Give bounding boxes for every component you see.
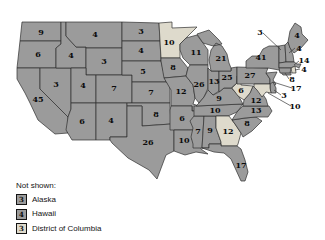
- votes-georgia: 12: [222, 126, 233, 136]
- legend: Not shown: 3 Alaska 4 Hawaii 3 District …: [16, 182, 101, 238]
- votes-tennessee: 10: [209, 105, 221, 115]
- votes-west-virginia: 6: [238, 85, 244, 95]
- votes-south-dakota: 4: [138, 45, 144, 55]
- votes-montana: 4: [92, 29, 98, 39]
- votes-vermont: 3: [257, 27, 263, 37]
- legend-votes-alaska: 3: [19, 196, 24, 203]
- votes-rhode-island: 4: [301, 64, 307, 74]
- votes-nevada: 3: [53, 79, 59, 89]
- votes-arizona: 6: [79, 116, 85, 126]
- votes-iowa: 8: [170, 62, 176, 72]
- votes-nebraska: 5: [140, 66, 146, 76]
- votes-michigan: 21: [215, 53, 226, 63]
- votes-oregon: 6: [35, 49, 41, 59]
- legend-label-hawaii: Hawaii: [32, 210, 56, 218]
- votes-alabama: 9: [207, 125, 213, 135]
- votes-idaho: 4: [68, 50, 74, 60]
- legend-swatch-hawaii: 4: [16, 209, 27, 220]
- votes-kentucky: 9: [216, 93, 222, 103]
- votes-california: 45: [32, 94, 43, 104]
- votes-louisiana: 10: [178, 135, 190, 145]
- votes-illinois: 26: [193, 79, 205, 89]
- votes-virginia: 12: [250, 95, 261, 105]
- votes-texas: 26: [142, 137, 154, 147]
- votes-colorado: 7: [111, 83, 117, 93]
- votes-north-carolina: 13: [250, 105, 262, 115]
- state-connecticut: [279, 68, 291, 73]
- votes-wyoming: 3: [101, 56, 107, 66]
- legend-votes-hawaii: 4: [19, 211, 24, 218]
- votes-minnesota: 10: [163, 37, 175, 47]
- votes-kansas: 7: [148, 87, 154, 97]
- votes-utah: 4: [80, 80, 86, 90]
- votes-oklahoma: 8: [153, 109, 159, 119]
- votes-new-york: 41: [255, 52, 266, 62]
- pointer-line-maryland: [268, 93, 291, 106]
- votes-maine: 4: [294, 30, 300, 40]
- votes-arkansas: 6: [179, 113, 185, 123]
- legend-label-alaska: Alaska: [32, 196, 56, 204]
- legend-swatch-alaska: 3: [16, 194, 27, 205]
- votes-wisconsin: 11: [190, 47, 201, 57]
- votes-pennsylvania: 27: [244, 70, 255, 80]
- legend-swatch-district-of-columbia: 3: [16, 223, 27, 234]
- votes-new-jersey: 17: [290, 83, 301, 93]
- legend-label-district-of-columbia: District of Columbia: [32, 225, 101, 233]
- legend-item-alaska: 3 Alaska: [16, 194, 101, 205]
- votes-new-mexico: 4: [108, 115, 114, 125]
- electoral-map-figure: 9 6 45 3 4 4 3 4 7 6 4 3 4 5 7 8 26 10 8…: [0, 0, 325, 240]
- votes-washington: 9: [38, 27, 44, 37]
- votes-delaware: 3: [281, 90, 287, 100]
- legend-votes-district-of-columbia: 3: [19, 225, 24, 232]
- votes-north-dakota: 3: [138, 26, 144, 36]
- votes-indiana: 13: [208, 76, 220, 86]
- legend-title: Not shown:: [16, 182, 101, 190]
- votes-mississippi: 7: [195, 126, 201, 136]
- legend-item-hawaii: 4 Hawaii: [16, 209, 101, 220]
- legend-item-district-of-columbia: 3 District of Columbia: [16, 223, 101, 234]
- votes-ohio: 25: [221, 72, 232, 82]
- votes-maryland: 10: [289, 101, 301, 111]
- votes-missouri: 12: [175, 86, 186, 96]
- votes-south-carolina: 8: [244, 118, 250, 128]
- votes-new-hampshire: 4: [296, 43, 302, 53]
- votes-florida: 17: [235, 160, 246, 170]
